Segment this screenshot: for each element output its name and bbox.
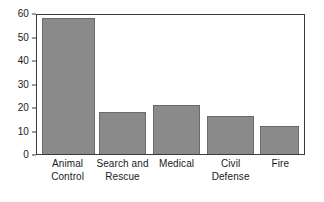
y-tick-label: 40 xyxy=(18,56,29,66)
plot-area xyxy=(36,14,305,155)
bar-chart: 0102030405060 Animal ControlSearch and R… xyxy=(0,0,324,202)
x-axis-label-4: Fire xyxy=(240,158,320,171)
x-axis-labels: Animal ControlSearch and RescueMedicalCi… xyxy=(0,158,324,198)
y-tick-label: 30 xyxy=(18,80,29,90)
y-tick-label: 20 xyxy=(18,103,29,113)
bar-1 xyxy=(99,112,146,154)
y-tick-label: 10 xyxy=(18,127,29,137)
y-tick-label: 60 xyxy=(18,9,29,19)
bar-4 xyxy=(260,126,299,154)
bar-2 xyxy=(153,105,200,154)
bar-3 xyxy=(207,116,254,154)
y-tick-label: 50 xyxy=(18,33,29,43)
bar-0 xyxy=(42,18,95,154)
